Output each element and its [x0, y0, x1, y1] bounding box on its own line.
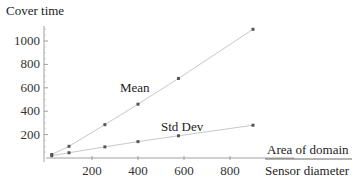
y-tick-label: 400	[21, 103, 41, 118]
mean-line	[52, 29, 253, 154]
series-group	[50, 28, 254, 157]
x-axis-title-numerator: Area of domain	[267, 142, 349, 157]
stddev-point	[137, 140, 140, 143]
x-tick-label: 600	[174, 163, 194, 178]
mean-point	[252, 28, 255, 31]
x-axis-title-denominator: Sensor diameter	[265, 163, 350, 178]
stddev-point	[252, 124, 255, 127]
y-tick-label: 1000	[14, 33, 40, 48]
stddev-point	[68, 151, 71, 154]
mean-point	[68, 145, 71, 148]
y-axis-title: Cover time	[6, 3, 64, 18]
x-tick-label: 800	[220, 163, 240, 178]
x-tick-label: 200	[82, 163, 102, 178]
stddev-point	[103, 145, 106, 148]
stddev-series-label: Std Dev	[161, 119, 204, 134]
mean-series-label: Mean	[120, 80, 150, 95]
stddev-point	[50, 154, 53, 157]
y-tick-label: 200	[21, 127, 41, 142]
chart: 2004006008001000200400600800 Cover time …	[0, 0, 354, 189]
y-tick-label: 600	[21, 80, 41, 95]
stddev-line	[52, 125, 253, 155]
mean-point	[103, 123, 106, 126]
y-tick-label: 800	[21, 56, 41, 71]
stddev-point	[177, 134, 180, 137]
mean-point	[137, 103, 140, 106]
mean-point	[177, 77, 180, 80]
x-tick-label: 400	[128, 163, 148, 178]
